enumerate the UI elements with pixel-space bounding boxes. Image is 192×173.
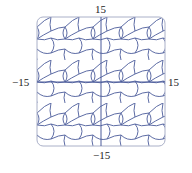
y-max-label: 15 — [95, 4, 106, 15]
y-min-label: −15 — [93, 150, 110, 161]
x-min-label: −15 — [12, 77, 29, 88]
x-max-label: 15 — [168, 77, 179, 88]
